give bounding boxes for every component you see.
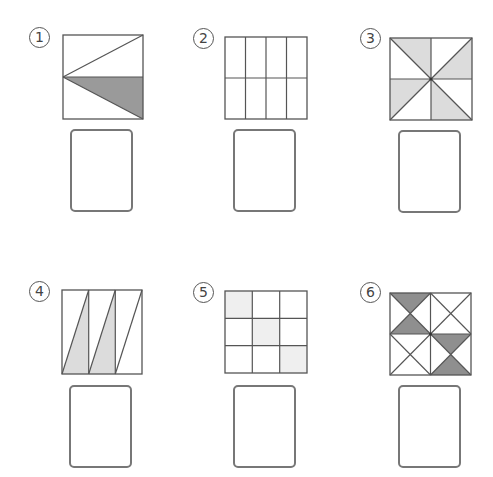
figure-4-square bbox=[62, 290, 142, 374]
figure-1-square bbox=[63, 35, 143, 119]
answer-box-3[interactable] bbox=[398, 130, 461, 213]
answer-box-4[interactable] bbox=[69, 385, 132, 468]
problem-number-6: 6 bbox=[360, 282, 381, 303]
figure-6-square bbox=[390, 293, 471, 375]
answer-box-1[interactable] bbox=[70, 129, 133, 212]
answer-box-6[interactable] bbox=[398, 385, 461, 468]
figure-5-grid bbox=[225, 291, 307, 373]
problem-number-4: 4 bbox=[29, 281, 50, 302]
problem-number-3: 3 bbox=[360, 28, 381, 49]
figure-3-square bbox=[390, 38, 472, 120]
problem-number-5: 5 bbox=[193, 282, 214, 303]
answer-box-5[interactable] bbox=[233, 385, 296, 468]
problem-number-2: 2 bbox=[193, 28, 214, 49]
figure-2-square bbox=[225, 37, 307, 119]
answer-box-2[interactable] bbox=[233, 129, 296, 212]
problem-number-1: 1 bbox=[29, 27, 50, 48]
